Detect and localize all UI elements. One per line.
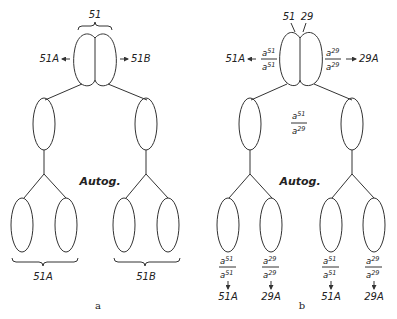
offspring-genotype: a29 a29 29A bbox=[364, 255, 384, 302]
svg-text:a51: a51 bbox=[292, 110, 306, 121]
left-arrow-label: 51A bbox=[225, 53, 245, 64]
svg-text:a29: a29 bbox=[326, 61, 340, 72]
svg-text:a29: a29 bbox=[263, 255, 277, 266]
fork-line bbox=[146, 174, 168, 198]
diagram-canvas: 51 51A 51B Autog. 51A 51B bbox=[0, 0, 397, 319]
parent-left-label: 51 bbox=[283, 11, 296, 22]
daughter-cell-right bbox=[341, 98, 363, 150]
granddaughter-cell bbox=[320, 198, 342, 252]
center-genotype: a51 a29 bbox=[291, 110, 307, 136]
svg-text:a51: a51 bbox=[220, 255, 234, 266]
offspring-genotype: a29 a29 29A bbox=[261, 255, 281, 302]
svg-text:29A: 29A bbox=[364, 291, 384, 302]
svg-text:a29: a29 bbox=[326, 47, 340, 58]
panel-a: 51 51A 51B Autog. 51A 51B bbox=[11, 9, 180, 311]
parent-cell-right bbox=[300, 32, 322, 85]
pointer-line bbox=[291, 23, 295, 32]
svg-text:a51: a51 bbox=[323, 255, 337, 266]
branch-line bbox=[108, 84, 147, 100]
right-genotype: a29 a29 bbox=[325, 47, 341, 72]
svg-text:51A: 51A bbox=[218, 291, 238, 302]
fork-line bbox=[24, 174, 44, 198]
granddaughter-cell bbox=[11, 198, 33, 252]
granddaughter-cell bbox=[217, 198, 239, 252]
fork-line bbox=[126, 174, 146, 198]
left-arrow-label: 51A bbox=[39, 53, 59, 64]
bottom-brace-left bbox=[12, 258, 78, 266]
right-arrow-label: 29A bbox=[359, 53, 379, 64]
svg-text:a29: a29 bbox=[366, 255, 380, 266]
offspring-genotype: a51 a51 51A bbox=[218, 255, 238, 302]
pointer-line bbox=[303, 23, 306, 32]
svg-text:a51: a51 bbox=[262, 61, 276, 72]
bottom-left-label: 51A bbox=[33, 271, 53, 282]
svg-text:a51: a51 bbox=[262, 47, 276, 58]
top-brace bbox=[78, 22, 112, 30]
autogamy-label: Autog. bbox=[278, 175, 320, 188]
granddaughter-cell bbox=[55, 198, 77, 252]
fork-line bbox=[250, 174, 272, 198]
granddaughter-cell bbox=[157, 198, 179, 252]
svg-text:51A: 51A bbox=[321, 291, 341, 302]
right-arrow-label: 51B bbox=[131, 53, 151, 64]
branch-line bbox=[314, 84, 352, 100]
panel-a-label: a bbox=[95, 300, 101, 311]
svg-text:29A: 29A bbox=[261, 291, 281, 302]
bottom-brace-right bbox=[114, 258, 180, 266]
parent-cell-right bbox=[95, 34, 116, 86]
svg-text:a29: a29 bbox=[292, 125, 306, 136]
offspring-genotype: a51 a51 51A bbox=[321, 255, 341, 302]
daughter-cell-right bbox=[135, 98, 157, 150]
panel-b: 51 29 a51 a51 51A a29 a29 29A bbox=[217, 11, 385, 311]
panel-b-label: b bbox=[299, 300, 305, 311]
daughter-cell-left bbox=[239, 98, 261, 150]
autogamy-label: Autog. bbox=[78, 175, 120, 188]
parent-right-label: 29 bbox=[301, 11, 314, 22]
parent-cell-left bbox=[280, 32, 300, 85]
parent-cell-left bbox=[74, 34, 95, 86]
branch-line bbox=[251, 84, 287, 100]
svg-text:a29: a29 bbox=[263, 269, 277, 280]
daughter-cell-left bbox=[33, 98, 55, 150]
parent-label: 51 bbox=[89, 9, 102, 20]
fork-line bbox=[229, 174, 250, 198]
svg-text:a51: a51 bbox=[220, 269, 234, 280]
fork-line bbox=[352, 174, 374, 198]
granddaughter-cell bbox=[363, 198, 385, 252]
fork-line bbox=[332, 174, 352, 198]
branch-line bbox=[45, 84, 82, 100]
bottom-right-label: 51B bbox=[136, 271, 156, 282]
granddaughter-cell bbox=[260, 198, 282, 252]
granddaughter-cell bbox=[113, 198, 135, 252]
svg-text:a51: a51 bbox=[323, 269, 337, 280]
left-genotype: a51 a51 bbox=[261, 47, 277, 72]
svg-text:a29: a29 bbox=[366, 269, 380, 280]
fork-line bbox=[44, 174, 66, 198]
